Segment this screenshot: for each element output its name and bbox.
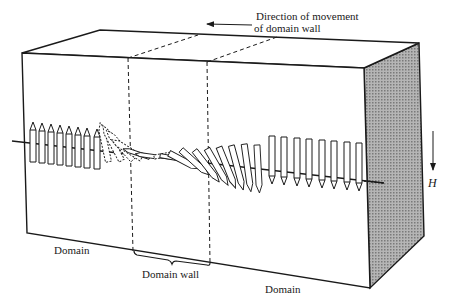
- block-side-face: [364, 43, 424, 288]
- domain-wall-diagram: Direction of movement of domain wall H D…: [0, 0, 452, 304]
- domain-right-label: Domain: [265, 283, 301, 295]
- movement-arrow-icon: [207, 24, 252, 25]
- movement-label-line2: of domain wall: [254, 22, 321, 34]
- movement-label-line1: Direction of movement: [256, 10, 359, 22]
- domain-left-label: Domain: [54, 244, 90, 256]
- field-label: H: [427, 176, 438, 190]
- domain-wall-label: Domain wall: [142, 268, 199, 280]
